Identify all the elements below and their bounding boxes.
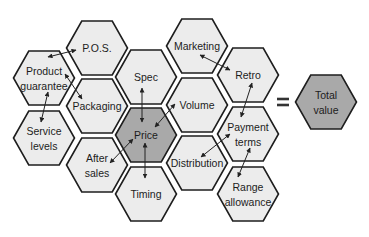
hexagon-label: Total bbox=[315, 89, 337, 101]
value-hexagon-diagram: P.O.S.ProductguaranteePackagingServicele… bbox=[0, 0, 369, 237]
hexagon-label: Packaging bbox=[72, 100, 121, 112]
hexagon-label: After bbox=[86, 152, 109, 164]
hexagon-marketing: Marketing bbox=[167, 19, 228, 73]
hexagon-label: Timing bbox=[130, 188, 161, 200]
hexagon-label: Service bbox=[26, 125, 61, 137]
hexagon-label: Volume bbox=[179, 99, 214, 111]
hexagon-label: allowance bbox=[225, 196, 272, 208]
hexagon-label: Spec bbox=[134, 71, 158, 83]
hexagon-shape bbox=[218, 167, 279, 221]
hexagon-shape bbox=[67, 138, 128, 192]
hexagon-label: levels bbox=[31, 140, 58, 152]
hexagon-label: value bbox=[313, 104, 338, 116]
hexagon-label: Marketing bbox=[174, 40, 220, 52]
hexagon-spec: Spec bbox=[116, 50, 177, 104]
hexagon-shape bbox=[14, 51, 75, 105]
hexagon-timing: Timing bbox=[116, 167, 177, 221]
hexagon-label: Distribution bbox=[171, 157, 224, 169]
hexagon-after-sales: Aftersales bbox=[67, 138, 128, 192]
hexagon-pos: P.O.S. bbox=[67, 21, 128, 75]
hexagon-label: guarantee bbox=[20, 80, 67, 92]
hexagon-packaging: Packaging bbox=[67, 79, 128, 133]
hexagon-price: Price bbox=[116, 108, 177, 162]
hexagon-shape bbox=[296, 75, 357, 129]
hexagon-label: P.O.S. bbox=[82, 42, 112, 54]
hexagon-label: Range bbox=[233, 181, 264, 193]
hexagon-service-levels: Servicelevels bbox=[14, 111, 75, 165]
hexagon-label: Payment bbox=[227, 121, 269, 133]
hexagon-product-guarantee: Productguarantee bbox=[14, 51, 75, 105]
hexagon-label: terms bbox=[235, 136, 261, 148]
hexagon-label: Retro bbox=[235, 69, 261, 81]
hexagon-total-value: Totalvalue bbox=[296, 75, 357, 129]
diagram-canvas: P.O.S.ProductguaranteePackagingServicele… bbox=[0, 0, 369, 237]
hexagon-layer: P.O.S.ProductguaranteePackagingServicele… bbox=[14, 19, 357, 221]
hexagon-label: Product bbox=[26, 65, 62, 77]
hexagon-shape bbox=[14, 111, 75, 165]
hexagon-distribution: Distribution bbox=[167, 136, 228, 190]
hexagon-range-allowance: Rangeallowance bbox=[218, 167, 279, 221]
hexagon-label: sales bbox=[85, 167, 110, 179]
equals-sign bbox=[277, 99, 289, 105]
hexagon-volume: Volume bbox=[167, 78, 228, 132]
hexagon-label: Price bbox=[134, 129, 158, 141]
